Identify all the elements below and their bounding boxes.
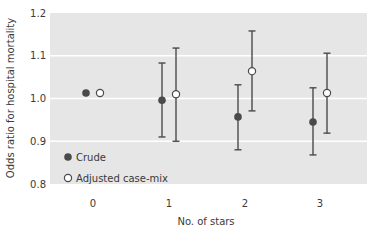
legend-crude-marker-icon — [64, 153, 72, 161]
adjusted-point — [248, 68, 255, 75]
x-tick-label: 2 — [242, 198, 248, 209]
y-axis-title: Odds ratio for hospital mortality — [5, 18, 16, 178]
adjusted-point — [96, 89, 103, 96]
legend-crude-label: Crude — [76, 152, 106, 163]
y-tick-label: 1.0 — [30, 93, 46, 104]
y-tick-label: 0.8 — [30, 179, 46, 190]
crude-point — [309, 118, 317, 126]
adjusted-point — [323, 89, 330, 96]
y-tick-label: 1.1 — [30, 50, 46, 61]
x-tick-label: 1 — [166, 198, 172, 209]
chart: 0.80.91.01.11.2 0123 Crude Adjusted case… — [0, 0, 377, 237]
x-tick-label: 0 — [90, 198, 96, 209]
x-tick-label: 3 — [317, 198, 323, 209]
adjusted-point — [172, 91, 179, 98]
y-tick-label: 1.2 — [30, 8, 46, 19]
crude-point — [82, 89, 90, 97]
y-axis-ticks: 0.80.91.01.11.2 — [30, 8, 46, 190]
x-axis-title: No. of stars — [177, 216, 234, 227]
crude-point — [234, 113, 242, 121]
y-tick-label: 0.9 — [30, 136, 46, 147]
crude-point — [158, 96, 166, 104]
legend-adjusted-marker-icon — [64, 174, 71, 181]
legend-adjusted-label: Adjusted case-mix — [76, 173, 168, 184]
x-axis-ticks: 0123 — [90, 198, 323, 209]
